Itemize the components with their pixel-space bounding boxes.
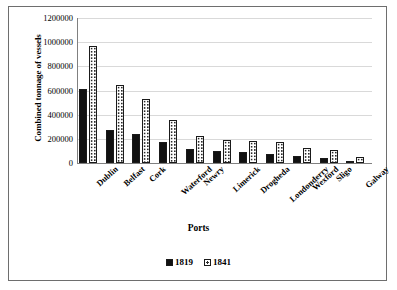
bar-group bbox=[158, 18, 185, 163]
bar-1819-drogheda bbox=[239, 152, 247, 163]
bar-1841-newry bbox=[196, 136, 204, 163]
y-axis-tick-label: 0 bbox=[9, 158, 73, 168]
bar-group bbox=[212, 18, 239, 163]
bar-1841-waterford bbox=[169, 120, 177, 163]
y-axis-tick-label: 200000 bbox=[9, 134, 73, 144]
y-axis-tick-label: 1000000 bbox=[9, 37, 73, 47]
x-axis-tick-label: Drogheda bbox=[258, 164, 291, 195]
bar-group bbox=[78, 18, 105, 163]
bar-group bbox=[265, 18, 292, 163]
bar-1841-galway bbox=[356, 157, 364, 163]
bar-group bbox=[185, 18, 212, 163]
bar-1841-drogheda bbox=[249, 141, 257, 163]
bar-1841-londonderry bbox=[276, 142, 284, 163]
y-axis-tick-label: 600000 bbox=[9, 86, 73, 96]
x-axis-tick-label: Limerick bbox=[231, 164, 263, 194]
bar-1819-wexford bbox=[293, 156, 301, 163]
dotted-white-square-icon bbox=[204, 259, 211, 266]
chart-legend: 18191841 bbox=[9, 257, 388, 267]
bar-1819-londonderry bbox=[266, 154, 274, 163]
bar-1819-dublin bbox=[79, 89, 87, 163]
bar-1841-belfast bbox=[116, 85, 124, 163]
x-axis-tick-label: Belfast bbox=[122, 164, 147, 188]
legend-entry-1819: 1819 bbox=[166, 257, 193, 267]
bar-group bbox=[105, 18, 132, 163]
y-axis-tick-label: 800000 bbox=[9, 61, 73, 71]
y-axis-tick-labels: 120000010000008000006000004000002000000 bbox=[9, 18, 73, 163]
bar-1841-limerick bbox=[223, 140, 231, 163]
bar-1819-newry bbox=[186, 149, 194, 163]
bar-1819-sligo bbox=[320, 158, 328, 163]
legend-label: 1841 bbox=[213, 257, 231, 267]
x-axis-tick-label: Cork bbox=[147, 164, 168, 184]
bar-group bbox=[131, 18, 158, 163]
bar-1841-sligo bbox=[330, 150, 338, 163]
bar-1841-cork bbox=[142, 99, 150, 163]
bar-1819-belfast bbox=[106, 130, 114, 163]
bar-1819-waterford bbox=[159, 142, 167, 163]
bar-group bbox=[292, 18, 319, 163]
bar-1819-limerick bbox=[213, 151, 221, 163]
bar-group bbox=[319, 18, 346, 163]
bar-group bbox=[238, 18, 265, 163]
bar-1841-dublin bbox=[89, 46, 97, 163]
legend-label: 1819 bbox=[175, 257, 193, 267]
y-axis-tick-label: 400000 bbox=[9, 110, 73, 120]
bar-1819-cork bbox=[132, 134, 140, 163]
chart-frame: Combined tonnage of vessels 120000010000… bbox=[8, 6, 387, 281]
x-axis-tick-label: Galway bbox=[363, 164, 390, 190]
bar-1819-galway bbox=[346, 161, 354, 163]
x-axis-tick-labels: DublinBelfastCorkWaterfordNewryLimerickD… bbox=[77, 164, 371, 210]
plot-area bbox=[77, 18, 372, 164]
x-axis-tick-label: Dublin bbox=[95, 164, 120, 188]
bar-group bbox=[345, 18, 372, 163]
x-axis-title: Ports bbox=[9, 223, 388, 233]
legend-entry-1841: 1841 bbox=[204, 257, 231, 267]
solid-black-square-icon bbox=[166, 259, 173, 266]
y-axis-tick-label: 1200000 bbox=[9, 13, 73, 23]
bar-1841-wexford bbox=[303, 148, 311, 163]
